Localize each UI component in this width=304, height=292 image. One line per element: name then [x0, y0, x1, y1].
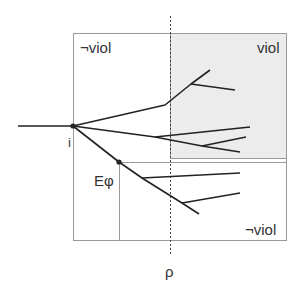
not-viol-top-label: ¬viol [80, 40, 111, 55]
not-viol-bottom-label: ¬viol [245, 222, 276, 237]
node-i [70, 123, 75, 128]
branch-path [182, 193, 240, 203]
viol-label: viol [257, 40, 280, 55]
node-i-label: i [68, 136, 71, 149]
branch-path [142, 173, 240, 178]
e-phi-label: Eφ [94, 173, 114, 188]
node-e-phi [116, 159, 121, 164]
rho-label: ρ [165, 264, 174, 279]
